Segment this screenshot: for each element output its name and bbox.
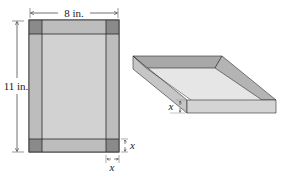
width-label: 8 in.: [64, 7, 84, 19]
diagram-canvas: 8 in. 11 in. x x: [0, 0, 281, 178]
flap-top: [42, 20, 106, 34]
cut-marker-bottom: x: [106, 155, 119, 173]
sheet-base: [29, 20, 119, 152]
cut-label-bottom: x: [109, 161, 115, 173]
cut-label-right: x: [129, 139, 135, 151]
flat-sheet: [29, 20, 119, 152]
corner-square-bottom-right: [106, 139, 119, 152]
tray-back-wall-inner: [133, 56, 222, 68]
flap-bottom: [42, 139, 106, 152]
width-dimension: 8 in.: [30, 7, 118, 19]
tray-front-wall: [187, 100, 276, 113]
corner-square-top-left: [29, 20, 42, 34]
open-box-tray: [133, 56, 276, 113]
corner-square-top-right: [106, 20, 119, 34]
cut-marker-right: x: [121, 139, 135, 152]
flap-right: [106, 34, 119, 139]
corner-square-bottom-left: [29, 139, 42, 152]
height-dimension: 11 in.: [4, 21, 29, 152]
flap-left: [29, 34, 42, 139]
height-label: 11 in.: [4, 80, 29, 92]
tray-height-label: x: [168, 100, 174, 112]
